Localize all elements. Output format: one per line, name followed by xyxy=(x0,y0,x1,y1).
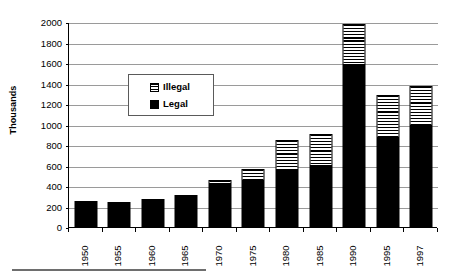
x-axis-tick xyxy=(437,228,438,232)
y-axis-tick-label: 400 xyxy=(22,182,62,192)
immigration-stacked-bar-chart: Thousands 020040060080010001200140016001… xyxy=(0,0,452,279)
x-axis-tick-label: 1995 xyxy=(381,236,392,276)
bar-segment-legal xyxy=(410,126,433,227)
bar-segment-legal xyxy=(74,201,97,227)
x-axis-tick xyxy=(403,228,404,232)
bar-segment-illegal xyxy=(410,86,433,126)
filled-square-icon xyxy=(150,100,159,109)
bar-slot xyxy=(404,22,438,227)
bar-slot xyxy=(103,22,137,227)
x-axis-tick xyxy=(336,228,337,232)
bar-segment-legal xyxy=(208,184,231,227)
x-axis-tick xyxy=(303,228,304,232)
chart-legend: Illegal Legal xyxy=(128,74,214,116)
bar-slot xyxy=(304,22,338,227)
bar-slot xyxy=(170,22,204,227)
x-axis-tick xyxy=(202,228,203,232)
footer-rule xyxy=(12,269,206,271)
bar-segment-legal xyxy=(343,65,366,227)
y-axis-tick-label: 0 xyxy=(22,223,62,233)
bar-segment-legal xyxy=(242,181,265,227)
x-axis-tick xyxy=(169,228,170,232)
bar-segment-legal xyxy=(175,195,198,227)
y-axis-tick-label: 1400 xyxy=(22,80,62,90)
bar-segment-illegal xyxy=(309,134,332,166)
bar-slot xyxy=(203,22,237,227)
legend-item-illegal: Illegal xyxy=(150,80,190,94)
x-axis-tick xyxy=(135,228,136,232)
x-axis-tick-label: 1985 xyxy=(314,236,325,276)
y-axis-tick-label: 200 xyxy=(22,203,62,213)
bar-slot xyxy=(69,22,103,227)
x-axis-tick xyxy=(269,228,270,232)
bar-segment-legal xyxy=(276,170,299,227)
y-axis-tick-label: 1600 xyxy=(22,59,62,69)
plot-area xyxy=(68,23,437,228)
legend-label-legal: Legal xyxy=(163,99,188,109)
bar-segment-legal xyxy=(108,202,131,227)
bar-segment-legal xyxy=(309,166,332,228)
y-axis-tick-label: 1200 xyxy=(22,100,62,110)
y-axis-title: Thousands xyxy=(8,70,18,150)
y-axis-tick-label: 1800 xyxy=(22,39,62,49)
y-axis-tick-label: 600 xyxy=(22,162,62,172)
bar-segment-illegal xyxy=(242,169,265,181)
legend-item-legal: Legal xyxy=(150,97,188,111)
x-axis-tick xyxy=(68,228,69,232)
x-axis-tick xyxy=(370,228,371,232)
hatched-square-icon xyxy=(150,83,159,92)
bar-slot xyxy=(237,22,271,227)
bar-segment-illegal xyxy=(208,180,231,184)
y-axis-tick-label: 1000 xyxy=(22,121,62,131)
bar-slot xyxy=(136,22,170,227)
legend-label-illegal: Illegal xyxy=(163,82,190,92)
bar-segment-illegal xyxy=(376,95,399,138)
x-axis-tick xyxy=(102,228,103,232)
y-axis-tick-label: 800 xyxy=(22,141,62,151)
x-axis-tick-label: 1975 xyxy=(247,236,258,276)
x-axis-tick xyxy=(236,228,237,232)
bar-segment-illegal xyxy=(343,24,366,65)
x-axis-tick-label: 1997 xyxy=(414,236,425,276)
x-axis-tick-label: 1970 xyxy=(213,236,224,276)
bar-segment-legal xyxy=(376,138,399,227)
bar-segment-legal xyxy=(141,199,164,227)
bar-slot xyxy=(371,22,405,227)
bar-slot xyxy=(270,22,304,227)
y-axis-tick-label: 2000 xyxy=(22,18,62,28)
bar-slot xyxy=(337,22,371,227)
x-axis-tick-label: 1990 xyxy=(347,236,358,276)
x-axis-tick-label: 1980 xyxy=(280,236,291,276)
bar-segment-illegal xyxy=(276,140,299,170)
bars-group xyxy=(69,22,438,227)
